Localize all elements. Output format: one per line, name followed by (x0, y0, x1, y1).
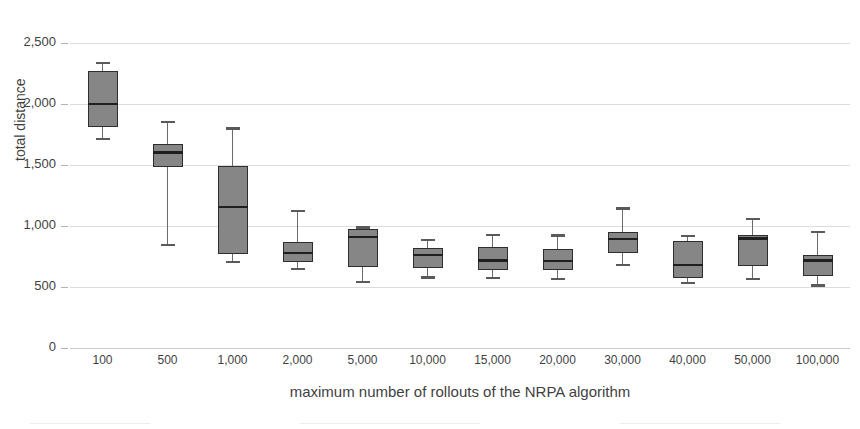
box-iqr (348, 229, 378, 267)
lower-whisker-cap (616, 264, 630, 266)
lower-whisker-cap (161, 244, 175, 246)
boxplot-box-group (395, 43, 460, 348)
upper-whisker (297, 211, 299, 243)
upper-whisker-cap (811, 231, 825, 233)
lower-whisker-cap (226, 261, 240, 263)
y-tick-mark (61, 287, 68, 288)
lower-whisker-cap (746, 278, 760, 280)
boxplot-box-group (525, 43, 590, 348)
median-line (738, 237, 768, 239)
x-tick-label: 2,000 (265, 353, 330, 367)
x-tick-label: 15,000 (460, 353, 525, 367)
median-line (283, 252, 313, 254)
x-tick-label: 1,000 (200, 353, 265, 367)
boxplot-box-group (785, 43, 850, 348)
lower-whisker-cap (486, 277, 500, 279)
median-line (803, 259, 833, 261)
x-tick-label: 30,000 (590, 353, 655, 367)
lower-whisker-cap (551, 278, 565, 280)
upper-whisker-cap (486, 234, 500, 236)
boxplot-box-group (135, 43, 200, 348)
page-edge-artifact (0, 419, 860, 429)
box-iqr (218, 166, 248, 254)
lower-whisker-cap (421, 276, 435, 278)
plot-area: 05001,0001,5002,0002,500 total distance … (70, 43, 850, 348)
boxplot-box-group (590, 43, 655, 348)
y-tick-mark (61, 165, 68, 166)
y-tick-label: 0 (0, 339, 56, 354)
x-tick-label: 100 (70, 353, 135, 367)
median-line (673, 264, 703, 266)
x-tick-label: 20,000 (525, 353, 590, 367)
boxplot-box-group (70, 43, 135, 348)
y-tick-mark (61, 226, 68, 227)
median-line (218, 206, 248, 208)
upper-whisker-cap (746, 218, 760, 220)
lower-whisker-cap (681, 282, 695, 284)
y-tick-mark (61, 348, 68, 349)
upper-whisker (167, 122, 169, 145)
box-iqr (413, 248, 443, 268)
y-tick-label: 1,000 (0, 217, 56, 232)
boxplot-chart: 05001,0001,5002,0002,500 total distance … (0, 0, 860, 429)
boxplot-box-group (655, 43, 720, 348)
median-line (153, 151, 183, 153)
x-tick-label: 5,000 (330, 353, 395, 367)
lower-whisker (362, 267, 364, 282)
x-tick-label: 40,000 (655, 353, 720, 367)
upper-whisker (232, 128, 234, 166)
y-tick-mark (61, 104, 68, 105)
box-iqr (608, 232, 638, 253)
x-tick-label: 100,000 (785, 353, 850, 367)
axis-baseline (70, 348, 850, 349)
x-axis-label: maximum number of rollouts of the NRPA a… (70, 383, 850, 400)
y-tick-mark (61, 43, 68, 44)
upper-whisker-cap (226, 127, 240, 129)
box-iqr (673, 241, 703, 278)
median-line (478, 259, 508, 261)
y-tick-label: 1,500 (0, 156, 56, 171)
box-iqr (738, 235, 768, 266)
boxplot-box-group (720, 43, 785, 348)
upper-whisker (557, 235, 559, 249)
lower-whisker-cap (811, 284, 825, 286)
upper-whisker (817, 232, 819, 255)
upper-whisker (622, 208, 624, 232)
lower-whisker-cap (291, 268, 305, 270)
upper-whisker-cap (291, 210, 305, 212)
lower-whisker (167, 167, 169, 245)
boxplot-box-group (200, 43, 265, 348)
median-line (88, 103, 118, 105)
cut-off-caption (0, 0, 860, 9)
upper-whisker-cap (551, 234, 565, 236)
lower-whisker-cap (356, 281, 370, 283)
median-line (608, 238, 638, 240)
boxplot-box-group (460, 43, 525, 348)
upper-whisker-cap (161, 121, 175, 123)
upper-whisker (492, 235, 494, 247)
upper-whisker-cap (681, 235, 695, 237)
box-iqr (153, 144, 183, 167)
upper-whisker-cap (96, 62, 110, 64)
median-line (543, 260, 573, 262)
x-tick-label: 500 (135, 353, 200, 367)
median-line (413, 254, 443, 256)
median-line (348, 236, 378, 238)
y-axis-label: total distance (12, 79, 28, 162)
box-iqr (88, 71, 118, 127)
x-tick-label: 50,000 (720, 353, 785, 367)
boxplot-box-group (265, 43, 330, 348)
y-tick-label: 2,500 (0, 34, 56, 49)
upper-whisker (752, 219, 754, 235)
x-tick-label: 10,000 (395, 353, 460, 367)
upper-whisker-cap (421, 239, 435, 241)
upper-whisker-cap (616, 207, 630, 209)
lower-whisker-cap (96, 138, 110, 140)
boxplot-box-group (330, 43, 395, 348)
y-tick-label: 2,000 (0, 95, 56, 110)
y-tick-label: 500 (0, 278, 56, 293)
